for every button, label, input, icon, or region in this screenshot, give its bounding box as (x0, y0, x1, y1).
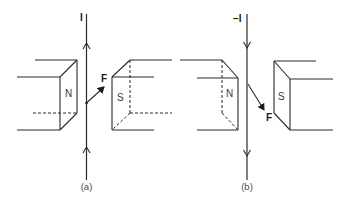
caption-a: (a) (81, 181, 93, 192)
panel-a: N S I F (a) (17, 12, 172, 192)
south-pole-label-b: S (278, 91, 285, 102)
force-arrow-icon (87, 87, 105, 103)
force-label-a: F (101, 73, 107, 84)
north-magnet-a: N (17, 60, 77, 130)
north-pole-label-b: N (226, 88, 233, 99)
force-vector-a: F (85, 73, 107, 104)
wire-b: −I (233, 13, 251, 180)
current-label-a: I (80, 12, 83, 23)
north-magnet-b: N (180, 60, 238, 130)
force-vector-b: F (248, 84, 272, 123)
force-arrow-icon (248, 84, 264, 110)
south-pole-label-a: S (117, 92, 124, 103)
south-magnet-b: S (274, 61, 333, 130)
force-label-b: F (266, 112, 272, 123)
caption-b: (b) (241, 181, 253, 192)
wire-a: I (80, 12, 90, 180)
south-magnet-a: S (112, 60, 172, 130)
current-label-b: −I (233, 13, 242, 24)
force-on-wire-diagram: N S I F (a) (0, 0, 348, 204)
panel-b: N S −I F (b) (180, 13, 333, 192)
north-pole-label-a: N (65, 88, 72, 99)
